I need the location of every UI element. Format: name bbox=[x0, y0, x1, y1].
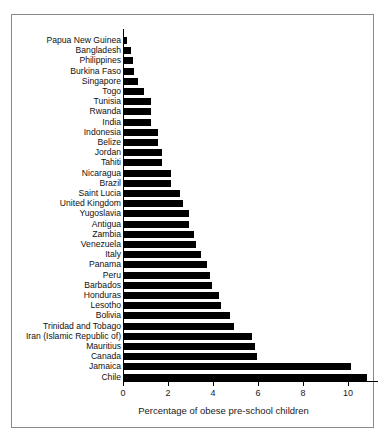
x-tick-mark bbox=[303, 382, 304, 386]
bar-category-label: Brazil bbox=[100, 178, 122, 188]
bar-row: India bbox=[12, 118, 375, 127]
bar-category-label: Indonesia bbox=[84, 127, 121, 137]
bar-row: Indonesia bbox=[12, 128, 375, 137]
bar-row: Papua New Guinea bbox=[12, 36, 375, 45]
x-tick-mark bbox=[213, 382, 214, 386]
bar bbox=[124, 374, 367, 381]
bar-category-label: Italy bbox=[105, 249, 121, 259]
plot-area: Papua New GuineaBangladeshPhilippinesBur… bbox=[12, 15, 375, 429]
bar-category-label: Bolivia bbox=[96, 310, 121, 320]
bar-row: Peru bbox=[12, 271, 375, 280]
bar bbox=[124, 159, 162, 166]
bar-category-label: Chile bbox=[101, 372, 121, 382]
bar-category-label: Trinidad and Tobago bbox=[43, 321, 121, 331]
bar bbox=[124, 129, 158, 136]
bar-row: Jordan bbox=[12, 148, 375, 157]
bar-category-label: Rwanda bbox=[89, 106, 121, 116]
bar-category-label: Mauritius bbox=[86, 341, 121, 351]
bar-category-label: Tunisia bbox=[94, 96, 121, 106]
bar-row: Belize bbox=[12, 138, 375, 147]
bar-row: Iran (Islamic Republic of) bbox=[12, 332, 375, 341]
bar-category-label: Jamaica bbox=[89, 361, 121, 371]
bar bbox=[124, 108, 151, 115]
bar-row: Lesotho bbox=[12, 301, 375, 310]
bar bbox=[124, 261, 207, 268]
x-tick-mark bbox=[123, 382, 124, 386]
x-tick-mark bbox=[258, 382, 259, 386]
bar bbox=[124, 210, 189, 217]
bar-row: Trinidad and Tobago bbox=[12, 322, 375, 331]
bar bbox=[124, 37, 127, 44]
bar-row: Singapore bbox=[12, 77, 375, 86]
bar bbox=[124, 78, 138, 85]
bar bbox=[124, 231, 194, 238]
bar bbox=[124, 68, 134, 75]
bar-category-label: Venezuela bbox=[81, 239, 121, 249]
bar-row: Honduras bbox=[12, 291, 375, 300]
bar-category-label: Nicaragua bbox=[82, 168, 121, 178]
bar-row: Tahiti bbox=[12, 158, 375, 167]
bar-category-label: Singapore bbox=[82, 76, 121, 86]
bar bbox=[124, 272, 210, 279]
bar bbox=[124, 251, 201, 258]
bar-row: United Kingdom bbox=[12, 199, 375, 208]
x-tick-label: 2 bbox=[156, 387, 180, 399]
bar-category-label: Barbados bbox=[84, 280, 121, 290]
x-tick-label: 0 bbox=[111, 387, 135, 399]
bar bbox=[124, 333, 252, 340]
x-tick-mark bbox=[348, 382, 349, 386]
bar bbox=[124, 363, 351, 370]
x-tick-label: 8 bbox=[291, 387, 315, 399]
bar bbox=[124, 241, 196, 248]
bar-category-label: Panama bbox=[89, 259, 121, 269]
bar bbox=[124, 323, 234, 330]
bar bbox=[124, 88, 144, 95]
bar bbox=[124, 312, 230, 319]
bar-row: Bolivia bbox=[12, 311, 375, 320]
bar-row: Canada bbox=[12, 352, 375, 361]
bar-row: Chile bbox=[12, 373, 375, 382]
bar-category-label: United Kingdom bbox=[60, 198, 121, 208]
bar-row: Rwanda bbox=[12, 107, 375, 116]
bar-category-label: Iran (Islamic Republic of) bbox=[26, 331, 121, 341]
bar bbox=[124, 119, 151, 126]
bar-row: Antigua bbox=[12, 220, 375, 229]
bar-row: Nicaragua bbox=[12, 169, 375, 178]
bar bbox=[124, 98, 151, 105]
x-tick-label: 10 bbox=[336, 387, 360, 399]
bar-row: Venezuela bbox=[12, 240, 375, 249]
bar bbox=[124, 170, 171, 177]
bar-category-label: India bbox=[102, 117, 121, 127]
bar bbox=[124, 282, 212, 289]
bar-row: Brazil bbox=[12, 179, 375, 188]
bar bbox=[124, 302, 221, 309]
bar-category-label: Antigua bbox=[92, 219, 121, 229]
bar bbox=[124, 292, 219, 299]
bar-category-label: Saint Lucia bbox=[78, 188, 121, 198]
x-tick-mark bbox=[168, 382, 169, 386]
bar bbox=[124, 149, 162, 156]
bar-row: Barbados bbox=[12, 281, 375, 290]
bar-row: Yugoslavia bbox=[12, 209, 375, 218]
bar bbox=[124, 180, 171, 187]
bar bbox=[124, 343, 255, 350]
bar-category-label: Burkina Faso bbox=[70, 66, 121, 76]
bar-row: Zambia bbox=[12, 230, 375, 239]
bar-row: Italy bbox=[12, 250, 375, 259]
bar-row: Panama bbox=[12, 260, 375, 269]
bar-category-label: Belize bbox=[98, 137, 121, 147]
x-tick-label: 4 bbox=[201, 387, 225, 399]
bar bbox=[124, 221, 189, 228]
bar-category-label: Bangladesh bbox=[76, 45, 121, 55]
bar-row: Burkina Faso bbox=[12, 67, 375, 76]
bar-category-label: Togo bbox=[102, 86, 121, 96]
bar-row: Mauritius bbox=[12, 342, 375, 351]
bar-category-label: Honduras bbox=[84, 290, 121, 300]
bar bbox=[124, 57, 133, 64]
bar-category-label: Peru bbox=[103, 270, 121, 280]
x-tick-label: 6 bbox=[246, 387, 270, 399]
bar-category-label: Lesotho bbox=[90, 300, 121, 310]
bar-category-label: Philippines bbox=[79, 55, 121, 65]
bar bbox=[124, 353, 257, 360]
bar-row: Togo bbox=[12, 87, 375, 96]
